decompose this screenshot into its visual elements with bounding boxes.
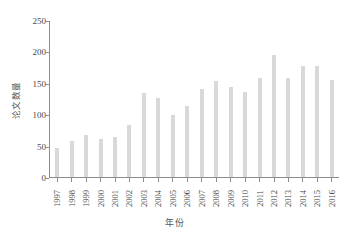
x-axis-tick-label: 2016: [327, 190, 336, 207]
y-axis-tick-mark: [46, 115, 49, 116]
x-axis-tick-mark: [100, 178, 101, 182]
x-label-slot: 2000: [93, 183, 107, 213]
bar-slot: [50, 21, 64, 177]
bar-slot: [180, 21, 194, 177]
x-axis-tick-label: 2006: [183, 190, 192, 207]
bar: [113, 137, 117, 177]
x-tick-slot: [108, 178, 122, 182]
bar: [200, 89, 204, 177]
bar: [330, 80, 334, 177]
x-tick-slot: [79, 178, 93, 182]
bar: [156, 98, 160, 177]
x-axis-tick-mark: [317, 178, 318, 182]
x-tick-slot: [50, 178, 64, 182]
x-label-slot: 1997: [50, 183, 64, 213]
y-axis-tick-mark: [46, 21, 49, 22]
x-label-slot: 2014: [296, 183, 310, 213]
x-tick-slot: [166, 178, 180, 182]
bar: [214, 81, 218, 177]
bar: [272, 55, 276, 177]
x-label-slot: 1999: [79, 183, 93, 213]
x-axis-tick-mark: [274, 178, 275, 182]
x-tick-slot: [296, 178, 310, 182]
x-axis-title-text: 年份: [165, 218, 184, 228]
x-axis-tick-mark: [129, 178, 130, 182]
x-tick-slot: [64, 178, 78, 182]
bar-slot: [108, 21, 122, 177]
x-axis-tick-label: 2009: [226, 190, 235, 207]
bar-chart: 论文数量 050100150200250 1997199819992000200…: [0, 0, 349, 236]
bar: [185, 106, 189, 177]
bar: [142, 93, 146, 177]
bar-slot: [79, 21, 93, 177]
x-tick-slot: [267, 178, 281, 182]
x-label-slot: 2013: [281, 183, 295, 213]
bar: [55, 148, 59, 177]
x-tick-slot: [223, 178, 237, 182]
x-axis-tick-marks: [50, 178, 339, 182]
bar-slot: [325, 21, 339, 177]
plot-area: [49, 21, 339, 178]
x-axis-tick-mark: [158, 178, 159, 182]
bar: [84, 135, 88, 177]
x-tick-slot: [195, 178, 209, 182]
x-label-slot: 2010: [238, 183, 252, 213]
y-axis-tick-label: 100: [33, 111, 47, 120]
x-label-slot: 2015: [310, 183, 324, 213]
x-axis-tick-mark: [302, 178, 303, 182]
x-axis-tick-mark: [71, 178, 72, 182]
bar-series: [50, 21, 339, 177]
bar-slot: [151, 21, 165, 177]
x-tick-slot: [238, 178, 252, 182]
x-label-slot: 2016: [325, 183, 339, 213]
x-axis-tick-label: 2000: [96, 190, 105, 207]
x-axis-tick-mark: [143, 178, 144, 182]
x-axis-tick-mark: [57, 178, 58, 182]
x-axis-tick-label: 2012: [270, 190, 279, 207]
x-label-slot: 2004: [151, 183, 165, 213]
x-tick-slot: [151, 178, 165, 182]
bar-slot: [93, 21, 107, 177]
x-label-slot: 2008: [209, 183, 223, 213]
y-axis-tick-label: 250: [33, 17, 47, 26]
x-axis-tick-label: 2007: [197, 190, 206, 207]
bar-slot: [281, 21, 295, 177]
x-axis-tick-label: 2011: [255, 190, 264, 207]
x-axis-tick-label: 2014: [298, 190, 307, 207]
x-tick-slot: [137, 178, 151, 182]
x-label-slot: 2009: [223, 183, 237, 213]
x-axis-tick-mark: [288, 178, 289, 182]
bar: [243, 92, 247, 177]
x-label-slot: 2006: [180, 183, 194, 213]
bar-slot: [310, 21, 324, 177]
x-axis-tick-mark: [245, 178, 246, 182]
bar-slot: [64, 21, 78, 177]
y-axis-title-text: 论文数量: [9, 81, 21, 119]
x-axis-tick-label: 2010: [241, 190, 250, 207]
x-axis-tick-label: 2013: [284, 190, 293, 207]
x-tick-slot: [310, 178, 324, 182]
x-axis-tick-mark: [216, 178, 217, 182]
bar: [315, 66, 319, 177]
x-label-slot: 2005: [166, 183, 180, 213]
x-axis-tick-label: 2001: [111, 190, 120, 207]
x-label-slot: 2001: [108, 183, 122, 213]
bar-slot: [238, 21, 252, 177]
x-tick-slot: [325, 178, 339, 182]
x-axis-tick-mark: [230, 178, 231, 182]
x-axis-title: 年份: [0, 216, 349, 229]
y-axis-tick-labels: 050100150200250: [22, 21, 46, 178]
x-axis-tick-label: 2003: [139, 190, 148, 207]
x-axis-tick-mark: [201, 178, 202, 182]
x-axis-tick-mark: [187, 178, 188, 182]
x-axis-tick-label: 2008: [212, 190, 221, 207]
x-label-slot: 2011: [252, 183, 266, 213]
y-axis-tick-label: 50: [37, 142, 46, 151]
x-label-slot: 2003: [137, 183, 151, 213]
bar-slot: [267, 21, 281, 177]
x-label-slot: 2002: [122, 183, 136, 213]
y-axis-tick-mark: [46, 147, 49, 148]
x-axis-tick-mark: [86, 178, 87, 182]
x-tick-slot: [122, 178, 136, 182]
x-tick-slot: [252, 178, 266, 182]
